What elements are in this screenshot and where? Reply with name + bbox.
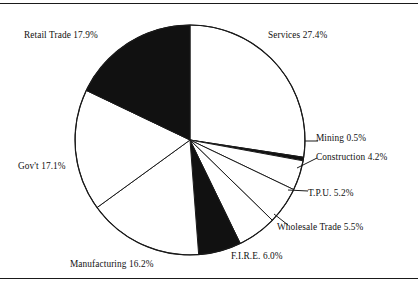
- pie-label-tpu: T.P.U. 5.2%: [308, 188, 354, 198]
- pie-chart-svg: [0, 0, 418, 291]
- pie-label-govt: Gov't 17.1%: [18, 161, 66, 171]
- pie-label-fire: F.I.R.E. 6.0%: [231, 251, 283, 261]
- pie-label-mining: Mining 0.5%: [316, 133, 366, 143]
- pie-label-construction: Construction 4.2%: [316, 152, 387, 162]
- pie-slice-services: [190, 25, 305, 157]
- pie-chart: Retail Trade 17.9% Services 27.4% Mining…: [0, 0, 418, 291]
- pie-label-services: Services 27.4%: [268, 30, 327, 40]
- chart-page: Retail Trade 17.9% Services 27.4% Mining…: [0, 0, 418, 291]
- pie-label-retail-trade: Retail Trade 17.9%: [24, 30, 98, 40]
- pie-label-wholesale-trade: Wholesale Trade 5.5%: [277, 222, 363, 232]
- pie-label-manufacturing: Manufacturing 16.2%: [70, 259, 153, 269]
- pie-slice-group: [75, 25, 305, 255]
